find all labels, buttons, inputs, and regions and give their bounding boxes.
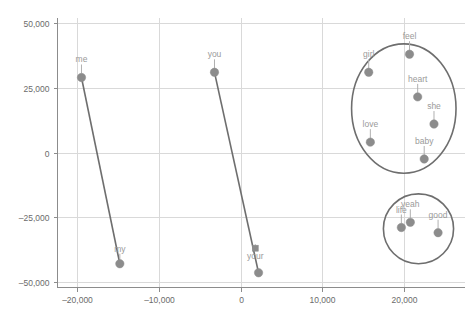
data-point[interactable]: good — [429, 210, 448, 237]
data-point[interactable] — [254, 269, 262, 277]
point-label: feel — [403, 31, 417, 41]
x-tick-label: –10,000 — [144, 295, 175, 305]
point-label: girl — [363, 49, 374, 59]
data-point[interactable]: she — [427, 101, 441, 128]
y-tick-label: 0 — [45, 149, 50, 159]
data-point[interactable]: your — [247, 244, 264, 261]
x-tick-label: 10,000 — [310, 295, 336, 305]
data-point[interactable]: my — [114, 244, 126, 268]
x-tick-label: –20,000 — [62, 295, 93, 305]
y-tick-label: –25,000 — [19, 213, 50, 223]
data-point[interactable]: love — [363, 119, 379, 146]
y-tick-label: –50,000 — [19, 278, 50, 288]
point-marker-circle[interactable] — [254, 269, 262, 277]
point-marker-circle[interactable] — [116, 260, 124, 268]
point-label: good — [429, 210, 448, 220]
scatter-chart: memyyouyourgirlfeelheartshelovebabylifey… — [0, 0, 472, 309]
data-point[interactable]: girl — [363, 49, 374, 76]
chart-canvas: memyyouyourgirlfeelheartshelovebabylifey… — [0, 0, 472, 309]
point-label: baby — [415, 136, 434, 146]
x-tick-label: 0 — [239, 295, 244, 305]
point-marker-circle[interactable] — [210, 68, 218, 76]
point-marker-circle[interactable] — [77, 73, 85, 81]
point-marker-circle[interactable] — [430, 120, 438, 128]
point-label: my — [114, 244, 126, 254]
point-marker-circle[interactable] — [406, 218, 414, 226]
point-marker-circle[interactable] — [365, 68, 373, 76]
data-point[interactable]: heart — [408, 74, 428, 101]
point-label: heart — [408, 74, 428, 84]
point-layer: memyyouyourgirlfeelheartshelovebabylifey… — [76, 31, 448, 277]
point-marker-circle[interactable] — [420, 155, 428, 163]
connector-layer — [81, 72, 258, 272]
point-marker-circle[interactable] — [366, 138, 374, 146]
y-tick-label: 50,000 — [24, 19, 50, 29]
connector-line — [214, 72, 258, 272]
point-label: she — [427, 101, 441, 111]
y-tick-label: 25,000 — [24, 84, 50, 94]
point-label: love — [363, 119, 379, 129]
point-marker-circle[interactable] — [434, 228, 442, 236]
point-marker-circle[interactable] — [413, 93, 421, 101]
data-point[interactable]: you — [208, 49, 222, 76]
point-label: your — [247, 251, 264, 261]
point-marker-circle[interactable] — [397, 223, 405, 231]
point-label: me — [76, 54, 88, 64]
point-label: you — [208, 49, 222, 59]
connector-line — [81, 77, 119, 263]
point-marker-circle[interactable] — [405, 50, 413, 58]
point-label: yeah — [401, 199, 420, 209]
x-tick-label: 20,000 — [392, 295, 418, 305]
data-point[interactable]: baby — [415, 136, 434, 163]
